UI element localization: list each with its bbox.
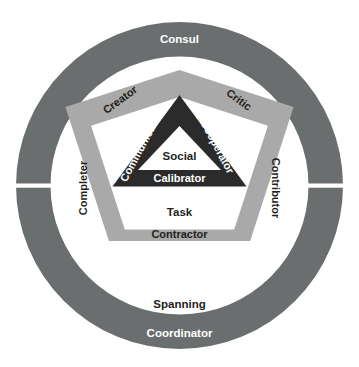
- pentagon-label-contributor: Contributor: [270, 158, 282, 219]
- ring-label-coordinator: Coordinator: [147, 327, 213, 339]
- diagram-canvas: Consul Coordinator Spanning Creator Crit…: [0, 0, 359, 367]
- triangle-label-calibrator: Calibrator: [154, 172, 207, 184]
- pentagon-label-completer: Completer: [77, 160, 89, 215]
- pentagon-label-contractor: Contractor: [151, 228, 208, 240]
- label-social: Social: [163, 150, 197, 162]
- label-task: Task: [167, 206, 193, 218]
- team-roles-diagram: Consul Coordinator Spanning Creator Crit…: [0, 0, 359, 367]
- label-spanning: Spanning: [153, 298, 205, 310]
- ring-label-consul: Consul: [160, 33, 199, 45]
